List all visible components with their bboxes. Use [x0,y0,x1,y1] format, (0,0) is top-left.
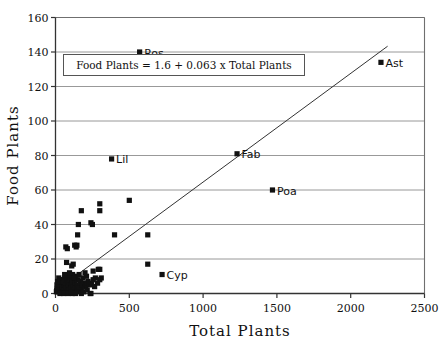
data-point [75,232,80,237]
data-point-label: Cyp [167,269,188,282]
data-point [62,272,67,277]
y-tick-label: 0 [42,288,49,301]
data-point [97,201,102,206]
data-point-label: Lil [116,153,128,166]
data-point [76,222,81,227]
x-tick-label: 1500 [263,302,291,315]
regression-line [56,46,388,291]
data-point-labeled [159,272,164,277]
y-tick-label: 20 [35,253,49,266]
data-point [97,208,102,213]
data-point [127,198,132,203]
y-tick-label: 60 [35,184,49,197]
y-tick-label: 120 [28,81,49,94]
data-point [88,291,93,296]
data-point [90,222,95,227]
data-point [73,291,78,296]
y-tick-label: 140 [28,46,49,59]
data-point [67,270,72,275]
data-point-labeled [378,60,383,65]
data-point [95,281,100,286]
data-point [61,291,66,296]
y-axis-title: Food Plants [4,105,22,205]
data-point [145,232,150,237]
x-tick-label: 0 [52,302,59,315]
y-tick-label: 80 [35,150,49,163]
data-point-labeled [234,151,239,156]
data-point [71,275,76,280]
data-point-labeled [109,156,114,161]
data-point-labeled [270,187,275,192]
y-tick-label: 160 [28,12,49,25]
data-point [96,267,101,272]
data-point [112,232,117,237]
data-point-label: Ast [385,57,403,70]
data-point [79,208,84,213]
data-point [64,260,69,265]
data-point [68,289,73,294]
data-point [91,268,96,273]
data-point [145,262,150,267]
data-point [55,279,60,284]
data-point-label: Fab [242,148,261,161]
x-tick-label: 500 [119,302,140,315]
data-point-label: Poa [277,185,297,198]
data-point [71,262,76,267]
data-point [65,246,70,251]
x-axis-title: Total Plants [189,322,291,340]
data-point-labeled [137,49,142,54]
equation-text: Food Plants = 1.6 + 0.063 x Total Plants [76,59,292,71]
plot-svg: 0204060801001201401600500100015002000250… [0,0,446,342]
x-tick-label: 1000 [189,302,217,315]
x-tick-label: 2000 [337,302,365,315]
y-tick-label: 100 [28,115,49,128]
x-tick-label: 2500 [411,302,439,315]
data-point [74,243,79,248]
scatter-plot-figure: 0204060801001201401600500100015002000250… [0,0,446,342]
y-tick-label: 40 [35,219,49,232]
